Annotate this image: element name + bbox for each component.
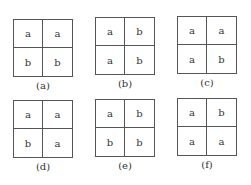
cell-bottom-left: a (178, 127, 207, 155)
panel-d: a a b a (d) (13, 100, 73, 172)
cell-top-right: a (207, 17, 236, 45)
panel-c: a a a b (c) (177, 16, 237, 88)
caption-c: (c) (177, 77, 237, 88)
cell-bottom-left: a (178, 45, 207, 73)
cell-top-right: b (125, 100, 154, 128)
cell-bottom-right: b (207, 45, 236, 73)
grid-f: a b a a (177, 98, 237, 156)
cell-bottom-right: b (125, 128, 154, 156)
panel-e: a b b b (e) (95, 99, 155, 171)
grid-e: a b b b (95, 99, 155, 157)
grid-d: a a b a (13, 100, 73, 158)
panel-f: a b a a (f) (177, 98, 237, 170)
cell-bottom-left: b (14, 48, 43, 76)
cell-top-left: a (14, 101, 43, 129)
cell-top-right: a (43, 20, 72, 48)
grid-b: a b a b (95, 17, 155, 75)
cell-bottom-right: b (125, 46, 154, 74)
cell-bottom-left: b (14, 129, 43, 157)
cell-top-left: a (96, 100, 125, 128)
cell-bottom-left: a (96, 46, 125, 74)
caption-d: (d) (13, 161, 73, 172)
cell-bottom-left: b (96, 128, 125, 156)
caption-a: (a) (13, 80, 73, 91)
cell-top-right: b (125, 18, 154, 46)
cell-top-left: a (178, 99, 207, 127)
cell-top-right: b (207, 99, 236, 127)
cell-top-left: a (96, 18, 125, 46)
panel-a: a a b b (a) (13, 19, 73, 91)
cell-top-left: a (178, 17, 207, 45)
cell-bottom-right: a (207, 127, 236, 155)
cell-top-right: a (43, 101, 72, 129)
cell-bottom-right: b (43, 48, 72, 76)
caption-f: (f) (177, 159, 237, 170)
cell-bottom-right: a (43, 129, 72, 157)
panel-b: a b a b (b) (95, 17, 155, 89)
caption-b: (b) (95, 78, 155, 89)
cell-top-left: a (14, 20, 43, 48)
grid-a: a a b b (13, 19, 73, 77)
grid-c: a a a b (177, 16, 237, 74)
caption-e: (e) (95, 160, 155, 171)
